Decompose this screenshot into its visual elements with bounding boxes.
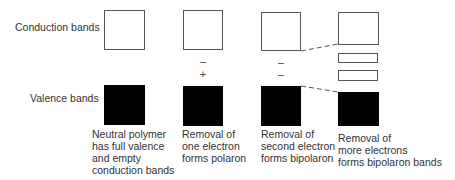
band-connector-lines <box>0 0 455 180</box>
